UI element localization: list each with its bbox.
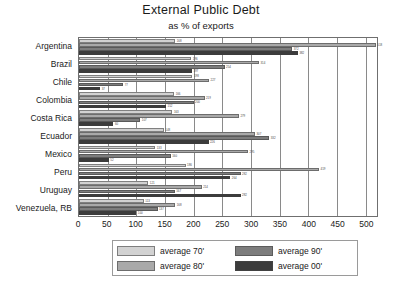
bar[interactable] (79, 39, 175, 43)
legend-item[interactable]: average 90' (235, 246, 353, 256)
x-axis-tick-label: 200 (186, 219, 200, 229)
bar-group: 13329516052 (79, 145, 377, 163)
bar[interactable] (79, 172, 241, 176)
bar[interactable] (79, 79, 209, 83)
bar[interactable] (79, 164, 186, 168)
bar[interactable] (79, 185, 202, 189)
x-axis-tick-label: 450 (331, 219, 345, 229)
chart-legend: average 70'average 90'average 80'average… (112, 240, 358, 276)
bar[interactable] (79, 128, 164, 132)
bar-slot: 419 (79, 168, 377, 172)
bar[interactable] (79, 101, 194, 105)
x-axis-tick-label: 300 (244, 219, 258, 229)
bar[interactable] (79, 199, 144, 203)
bar-slot: 198 (79, 75, 377, 79)
bar-value-label: 226 (209, 140, 215, 144)
y-axis-label: Argentina (0, 37, 75, 55)
bar[interactable] (79, 69, 192, 73)
bar[interactable] (79, 194, 241, 198)
x-axis-tick-label: 100 (129, 219, 143, 229)
bar[interactable] (79, 140, 209, 144)
y-axis-label: Chile (0, 73, 75, 91)
bar[interactable] (79, 122, 113, 126)
legend-swatch (235, 246, 273, 256)
y-axis-label: Mexico (0, 145, 75, 163)
bar[interactable] (79, 176, 230, 180)
legend-item[interactable]: average 80' (117, 261, 235, 271)
bar[interactable] (79, 168, 319, 172)
bar-value-label: 382 (298, 51, 304, 55)
y-axis-label: Costa Rica (0, 109, 75, 127)
bar-slot: 166 (79, 92, 377, 96)
chart-subtitle: as % of exports (0, 20, 402, 31)
bar-slot: 77 (79, 83, 377, 87)
bar-group: 168518372382 (79, 38, 377, 56)
bar[interactable] (79, 96, 205, 100)
bar-slot: 113 (79, 199, 377, 203)
bar[interactable] (79, 146, 155, 150)
bar[interactable] (79, 114, 239, 118)
bar-slot: 332 (79, 136, 377, 140)
bar-group: 113168137100 (79, 198, 377, 216)
bar-slot: 168 (79, 39, 377, 43)
bar[interactable] (79, 211, 136, 215)
bar-slot: 226 (79, 140, 377, 144)
bar-slot: 121 (79, 181, 377, 185)
legend-item[interactable]: average 00' (235, 261, 353, 271)
bar-rows: 1685183723821963142541971982277737166219… (79, 38, 377, 216)
bar-value-label: 100 (136, 211, 142, 215)
legend-swatch (117, 261, 155, 271)
x-axis-tick-label: 350 (273, 219, 287, 229)
bar[interactable] (79, 110, 172, 114)
bar[interactable] (79, 190, 175, 194)
bar[interactable] (79, 92, 174, 96)
bar[interactable] (79, 43, 376, 47)
bar-group: 16327910760 (79, 109, 377, 127)
bar[interactable] (79, 61, 259, 65)
bar[interactable] (79, 57, 191, 61)
bar[interactable] (79, 118, 140, 122)
bar[interactable] (79, 132, 255, 136)
bar-slot: 214 (79, 185, 377, 189)
x-axis-tick-label: 0 (76, 219, 81, 229)
bar-value-label: 282 (241, 193, 247, 197)
bar-slot: 282 (79, 172, 377, 176)
bar-group: 196314254197 (79, 56, 377, 74)
bar-slot: 307 (79, 132, 377, 136)
bar-slot: 254 (79, 65, 377, 69)
bar[interactable] (79, 150, 248, 154)
bar[interactable] (79, 105, 166, 109)
bar-slot: 282 (79, 194, 377, 198)
bar-slot: 152 (79, 105, 377, 109)
bar-slot: 107 (79, 118, 377, 122)
bar[interactable] (79, 75, 192, 79)
bar-slot: 52 (79, 158, 377, 162)
bar[interactable] (79, 87, 100, 91)
bar-slot: 295 (79, 150, 377, 154)
bar[interactable] (79, 136, 269, 140)
bar-slot: 382 (79, 51, 377, 55)
chart-title: External Public Debt (0, 3, 402, 17)
bar-value-label: 197 (192, 69, 198, 73)
bar-value-label: 264 (230, 176, 236, 180)
bar[interactable] (79, 181, 148, 185)
bar-slot: 137 (79, 207, 377, 211)
bar-slot: 60 (79, 122, 377, 126)
x-axis-tick-label: 50 (102, 219, 111, 229)
bar[interactable] (79, 207, 158, 211)
x-axis-labels: 050100150200250300350400450500 (78, 219, 378, 233)
bar[interactable] (79, 47, 292, 51)
legend-item[interactable]: average 70' (117, 246, 235, 256)
legend-label: average 80' (160, 261, 204, 271)
y-axis-label: Brazil (0, 55, 75, 73)
bar[interactable] (79, 154, 171, 158)
bar-slot: 167 (79, 190, 377, 194)
x-axis-tick-label: 150 (157, 219, 171, 229)
bar-slot: 186 (79, 164, 377, 168)
bar-value-label: 52 (109, 158, 114, 162)
bar[interactable] (79, 65, 225, 69)
bar-group: 1982277737 (79, 74, 377, 92)
y-axis-label: Uruguay (0, 181, 75, 199)
bar[interactable] (79, 51, 298, 55)
bar[interactable] (79, 158, 109, 162)
